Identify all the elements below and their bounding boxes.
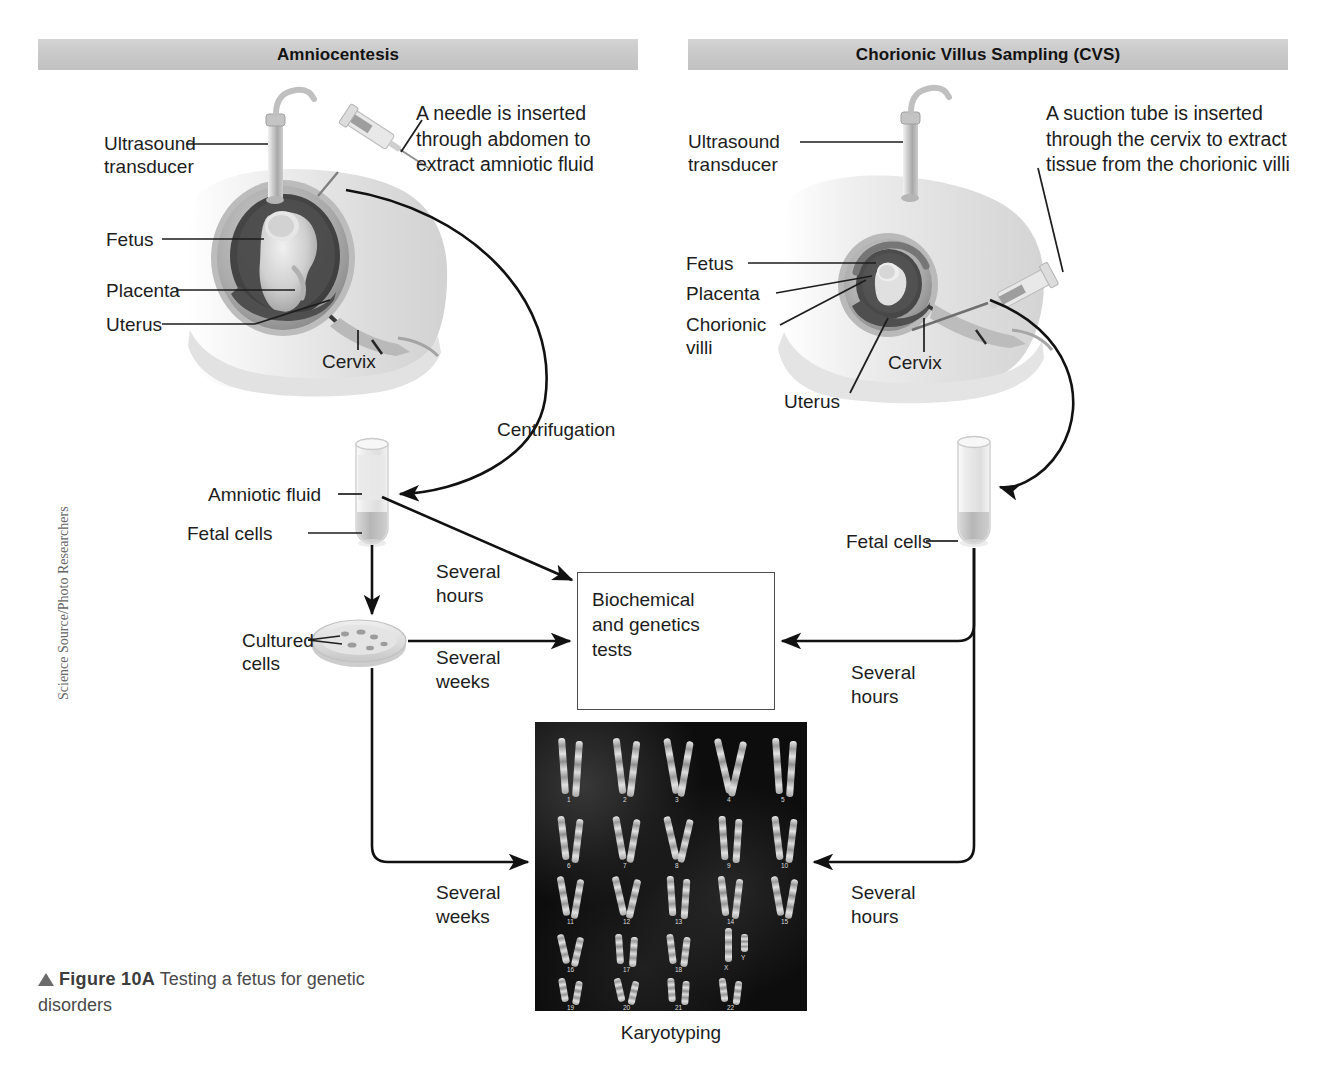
chromosome-number: 2 — [623, 796, 627, 803]
chromosome — [627, 741, 641, 797]
biochemical-tests-label: Biochemical and genetics tests — [592, 587, 700, 662]
chromosome — [785, 879, 799, 920]
chromosome-pair: 5 — [771, 738, 807, 806]
chromosome — [732, 879, 744, 920]
chromosome — [771, 816, 783, 861]
chromosome — [667, 876, 677, 916]
chromosome-pair: 21 — [665, 978, 701, 1011]
chromosome-pair: 1 — [557, 738, 593, 806]
chromosome-number: 10 — [781, 862, 788, 869]
label-amniotic-fluid: Amniotic fluid — [208, 483, 321, 506]
chromosome — [733, 981, 743, 1006]
chromosome — [626, 819, 641, 864]
leader-lines-left — [162, 120, 422, 350]
label-cervix-left: Cervix — [322, 350, 376, 373]
chromosome — [557, 876, 571, 917]
chromosome — [626, 879, 642, 920]
label-placenta-right: Placenta — [686, 282, 760, 305]
label-uterus-left: Uterus — [106, 313, 162, 336]
chromosome — [571, 879, 585, 920]
chromosome-number: 22 — [727, 1004, 734, 1011]
chromosome-number: 19 — [567, 1004, 574, 1011]
label-centrifugation: Centrifugation — [497, 418, 615, 442]
label-fetal-cells-left: Fetal cells — [187, 522, 273, 545]
chromosome — [612, 816, 627, 861]
panel-title-cvs: Chorionic Villus Sampling (CVS) — [856, 45, 1120, 65]
label-ultrasound-transducer-left: Ultrasound transducer — [104, 132, 196, 178]
chromosome — [732, 819, 742, 863]
image-credit: Science Source/Photo Researchers — [56, 506, 72, 700]
panel-header-cvs: Chorionic Villus Sampling (CVS) — [688, 39, 1288, 70]
chromosome-number: 9 — [727, 862, 731, 869]
chromosome-number: 15 — [781, 918, 788, 925]
chromosome — [627, 981, 639, 1006]
chromosome — [785, 819, 797, 864]
cvs-fetal-cells-tube — [958, 437, 990, 548]
figure-root: Amniocentesis Chorionic Villus Sampling … — [0, 0, 1322, 1085]
chromosome-pair: 10 — [771, 816, 807, 872]
chromosome-pair: 4 — [717, 738, 753, 806]
panel-title-amniocentesis: Amniocentesis — [277, 45, 399, 65]
karyotype-image: 12345678910111213141516171819202122XY — [535, 722, 807, 1011]
chromosome-pair: 16 — [557, 934, 593, 976]
amniocentesis-description: A needle is inserted through abdomen to … — [416, 101, 594, 178]
chromosome-number: 13 — [675, 918, 682, 925]
amniocentesis-illustration — [186, 90, 447, 397]
chromosome-pair: 15 — [771, 876, 807, 928]
label-cervix-right: Cervix — [888, 351, 942, 374]
chromosome-number: 14 — [727, 918, 734, 925]
chromosome — [613, 978, 625, 1003]
label-chorionic-villi: Chorionic villi — [686, 313, 766, 359]
chromosome — [728, 741, 747, 797]
chromosome — [615, 934, 624, 964]
chromosome-number: 16 — [567, 966, 574, 973]
label-several-hours-fluid: Several hours — [436, 560, 500, 608]
chromosome-number: 17 — [623, 966, 630, 973]
chromosome-pair: 13 — [665, 876, 701, 928]
chromosome — [667, 978, 676, 1002]
chromosome-pair: 14 — [717, 876, 753, 928]
chromosome-label-y: Y — [741, 954, 745, 961]
chromosome-x — [725, 928, 732, 962]
chromosome — [571, 819, 583, 864]
chromosome-pair: 11 — [557, 876, 593, 928]
chromosome — [558, 738, 569, 794]
chromosome — [613, 738, 627, 794]
chromosome — [629, 937, 638, 967]
chromosome-number: 5 — [781, 796, 785, 803]
chromosome — [786, 741, 797, 797]
figure-number: Figure 10A — [59, 969, 155, 989]
cvs-description: A suction tube is inserted through the c… — [1046, 101, 1290, 178]
panel-header-amniocentesis: Amniocentesis — [38, 39, 638, 70]
sex-chromosome-pair: XY — [721, 928, 761, 976]
chromosome-pair: 22 — [717, 978, 753, 1011]
chromosome-number: 21 — [675, 1004, 682, 1011]
chromosome-number: 4 — [727, 796, 731, 803]
chromosome-pair: 9 — [717, 816, 753, 872]
label-cultured-cells: Cultured cells — [242, 629, 314, 675]
chromosome-number: 3 — [675, 796, 679, 803]
chromosome — [666, 934, 677, 965]
chromosome-number: 6 — [567, 862, 571, 869]
chromosome — [558, 978, 569, 1003]
label-placenta-left: Placenta — [106, 279, 180, 302]
chromosome-pair: 17 — [613, 934, 649, 976]
chromosome — [663, 738, 680, 794]
chromosome-pair: 3 — [665, 738, 701, 806]
chromosome-pair: 20 — [613, 978, 649, 1011]
caption-triangle-icon — [38, 973, 54, 986]
chromosome-number: 12 — [623, 918, 630, 925]
chromosome — [677, 819, 694, 863]
amniotic-fluid-tube — [356, 439, 388, 548]
chromosome-number: 1 — [567, 796, 571, 803]
label-uterus-right: Uterus — [784, 390, 840, 413]
chromosome — [771, 876, 785, 917]
chromosome-number: 7 — [623, 862, 627, 869]
chromosome — [772, 738, 783, 794]
chromosome — [719, 978, 729, 1003]
chromosome — [663, 816, 680, 860]
chromosome — [557, 816, 569, 861]
chromosome-pair: 18 — [665, 934, 701, 976]
chromosome-pair: 2 — [613, 738, 649, 806]
chromosome — [557, 934, 571, 965]
